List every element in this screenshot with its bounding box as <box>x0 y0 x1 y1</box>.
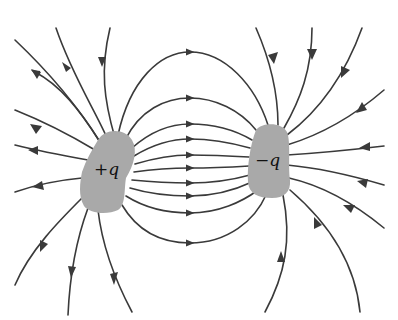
field-line <box>68 208 88 315</box>
dipole-field-diagram: +q −q <box>0 0 398 320</box>
connecting-field-lines <box>118 52 268 243</box>
field-line <box>190 155 249 157</box>
negative-charge: −q <box>248 124 290 198</box>
field-line <box>98 210 132 312</box>
field-line <box>126 196 190 213</box>
field-line <box>190 190 258 213</box>
arrowhead <box>31 69 41 79</box>
positive-charge: +q <box>80 131 135 213</box>
arrowhead <box>359 142 370 151</box>
field-line <box>125 98 190 140</box>
field-line <box>256 28 278 125</box>
field-line <box>287 90 384 145</box>
field-line <box>287 28 362 135</box>
field-line <box>132 180 190 183</box>
field-line <box>284 28 312 128</box>
field-line <box>190 52 268 125</box>
field-line <box>35 72 100 142</box>
field-line <box>135 155 190 164</box>
negative-charge-label: −q <box>255 150 280 170</box>
field-line <box>15 178 82 192</box>
field-line <box>132 124 190 148</box>
field-line <box>190 139 250 148</box>
arrowhead <box>356 102 367 113</box>
arrowhead <box>343 205 355 213</box>
field-line <box>122 205 190 243</box>
arrowhead <box>341 66 350 78</box>
arrowhead <box>357 179 368 188</box>
arrowhead <box>28 146 38 155</box>
field-line <box>104 28 115 138</box>
field-line <box>190 175 250 183</box>
field-line <box>118 52 190 135</box>
field-line <box>15 40 100 142</box>
field-line <box>190 182 252 196</box>
arrowhead <box>268 52 278 64</box>
arrowhead <box>30 124 42 134</box>
field-line <box>56 28 108 140</box>
field-line <box>130 188 190 196</box>
field-line <box>190 195 266 243</box>
positive-charge-label: +q <box>94 159 119 179</box>
field-line <box>134 168 190 172</box>
field-line <box>265 195 287 312</box>
arrowhead <box>40 240 48 252</box>
field-line <box>190 166 249 168</box>
field-line <box>134 139 190 156</box>
arrowhead <box>277 251 285 262</box>
field-line <box>15 145 88 160</box>
field-line <box>190 124 252 140</box>
arrowhead <box>307 49 317 60</box>
field-line <box>190 98 256 130</box>
